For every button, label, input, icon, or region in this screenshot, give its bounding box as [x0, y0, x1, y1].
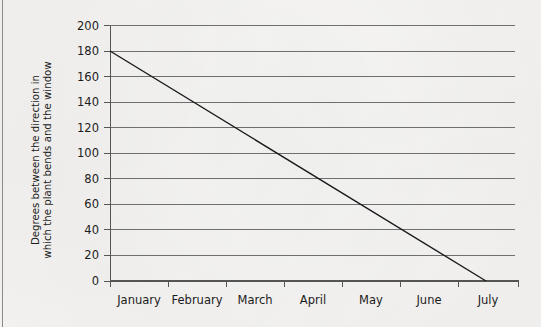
- y-tick-label-0: 0: [92, 274, 99, 288]
- x-tick-label-june: June: [415, 293, 441, 307]
- y-tick-label-160: 160: [77, 70, 99, 84]
- y-tick-label-140: 140: [77, 95, 99, 109]
- x-tick-labels-group: January February March April May June Ju…: [116, 293, 498, 307]
- data-series-bending-angle: [110, 51, 486, 281]
- y-tick-label-200: 200: [77, 19, 99, 33]
- y-tick-labels-group: 200 180 160 140 120 100 80 60 40 20 0: [77, 19, 99, 289]
- y-tick-label-40: 40: [84, 223, 99, 237]
- y-axis-title-line-1: Degrees between the direction in: [30, 75, 41, 245]
- data-line-segment: [110, 51, 486, 281]
- x-tick-label-july: July: [477, 293, 499, 307]
- y-tick-marks-group: [104, 26, 110, 282]
- y-tick-label-20: 20: [84, 248, 99, 262]
- y-axis-title-line-2: which the plant bends and the window: [42, 61, 53, 258]
- x-tick-label-february: February: [172, 293, 223, 307]
- y-tick-label-100: 100: [77, 146, 99, 160]
- x-tick-label-may: May: [359, 293, 383, 307]
- x-tick-label-january: January: [116, 293, 161, 307]
- x-tick-label-march: March: [237, 293, 272, 307]
- y-tick-label-80: 80: [84, 172, 99, 186]
- line-chart: 200 180 160 140 120 100 80 60 40 20 0 Ja…: [0, 0, 541, 327]
- x-tick-label-april: April: [300, 293, 326, 307]
- y-tick-label-60: 60: [84, 197, 99, 211]
- x-tick-marks-group: [111, 281, 519, 287]
- gridlines-group: [110, 26, 515, 256]
- chart-figure: 200 180 160 140 120 100 80 60 40 20 0 Ja…: [0, 0, 541, 327]
- y-tick-label-180: 180: [77, 44, 99, 58]
- y-tick-label-120: 120: [77, 121, 99, 135]
- y-axis-title: Degrees between the direction in which t…: [30, 61, 53, 258]
